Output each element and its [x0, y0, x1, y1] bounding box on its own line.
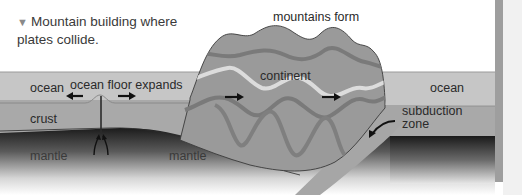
- label-mountains-form: mountains form: [273, 10, 359, 24]
- label-mantle-left: mantle: [30, 149, 68, 163]
- right-margin: [503, 0, 522, 195]
- label-crust: crust: [30, 112, 57, 126]
- label-subduction-zone: subduction zone: [402, 105, 462, 131]
- mountain-building-diagram: ▼Mountain building where plates collide.…: [0, 0, 522, 195]
- mantle-layer-right: [390, 136, 495, 184]
- label-continent: continent: [260, 69, 311, 83]
- label-ocean-floor-expands: ocean floor expands: [70, 78, 183, 92]
- label-ocean-left: ocean: [30, 81, 64, 95]
- figure-caption: ▼Mountain building where plates collide.: [17, 13, 177, 48]
- label-mantle-center: mantle: [169, 149, 207, 163]
- label-ocean-right: ocean: [430, 81, 464, 95]
- figure-edge-bar: [495, 0, 503, 182]
- caption-triangle-icon: ▼: [17, 16, 28, 28]
